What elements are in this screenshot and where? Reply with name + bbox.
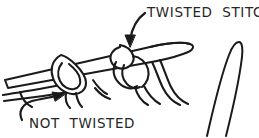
knitting-diagram-canvas: TWISTED STITCH NOT TWISTED (0, 0, 259, 138)
knitting-diagram-figure: TWISTED STITCH NOT TWISTED (0, 0, 259, 138)
not-twisted-label: NOT TWISTED (29, 115, 135, 131)
main-needle (5, 43, 193, 88)
twisted-stitch-callout-arrow (125, 13, 145, 47)
main-needle-shaft (5, 43, 193, 88)
second-needle-tip (207, 42, 242, 136)
twisted-stitch-label: TWISTED STITCH (146, 4, 259, 20)
